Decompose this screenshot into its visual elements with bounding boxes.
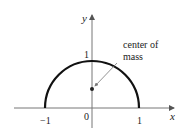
annotation-text-line2: mass xyxy=(123,51,143,62)
annotation-text-line1: center of xyxy=(123,39,159,50)
y-tick-1: 1 xyxy=(84,49,89,60)
y-axis-label: y xyxy=(81,12,87,24)
diagram-canvas: y x 1 −1 0 1 center of mass xyxy=(0,0,185,133)
x-axis-label: x xyxy=(169,110,175,122)
center-of-mass-point xyxy=(90,87,94,91)
x-tick-1: 1 xyxy=(137,115,142,126)
x-tick-0: 0 xyxy=(84,111,89,122)
annotation-leader-line xyxy=(95,63,117,86)
x-tick-neg1: −1 xyxy=(40,115,51,126)
